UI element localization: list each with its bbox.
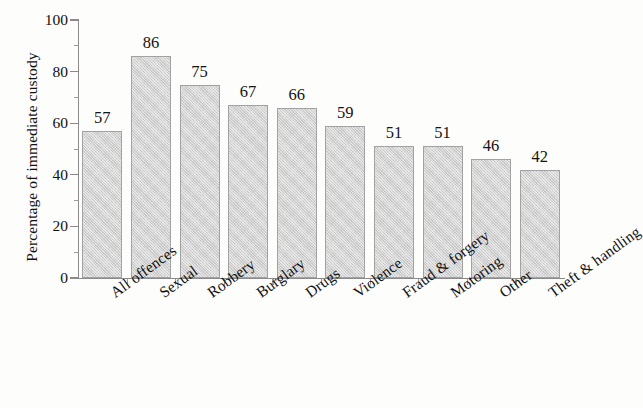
y-axis-tick	[70, 226, 79, 227]
y-axis-minor-tick	[74, 200, 79, 201]
y-axis-tick	[70, 277, 79, 278]
bar	[82, 131, 122, 278]
bar	[520, 170, 560, 278]
y-axis-tick-label: 40	[24, 167, 68, 183]
bar-value-label: 57	[72, 110, 132, 127]
y-axis-tick-label: 100	[24, 12, 68, 28]
bar-value-label: 66	[267, 87, 327, 104]
bar	[277, 108, 317, 278]
y-axis-tick-label: 80	[24, 64, 68, 80]
bar-value-label: 86	[121, 35, 181, 52]
y-axis-tick	[70, 19, 79, 20]
y-axis-tick-label: 60	[24, 115, 68, 131]
y-axis-tick-label: 0	[24, 270, 68, 286]
y-axis-tick	[70, 174, 79, 175]
bar	[180, 85, 220, 279]
y-axis-minor-tick	[74, 45, 79, 46]
y-axis-tick-label: 20	[24, 218, 68, 234]
y-axis-minor-tick	[74, 252, 79, 253]
y-axis-minor-tick	[74, 97, 79, 98]
bar	[325, 126, 365, 278]
y-axis-tick-labels: 020406080100	[12, 0, 68, 300]
bar	[228, 105, 268, 278]
y-axis-minor-tick	[74, 149, 79, 150]
bar-value-label: 42	[510, 149, 570, 166]
bar-value-label: 59	[315, 105, 375, 122]
y-axis-tick	[70, 71, 79, 72]
bar-value-label: 75	[170, 64, 230, 81]
